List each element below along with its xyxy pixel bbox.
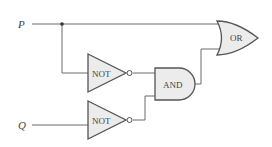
not-gate-1-label: NOT	[92, 69, 111, 79]
input-label-p: P	[17, 18, 25, 30]
wire-p-branch-to-not1	[62, 24, 88, 73]
not-gate-2: NOT	[88, 101, 132, 139]
or-gate-label: OR	[230, 33, 243, 43]
input-label-q: Q	[18, 119, 26, 131]
not-gate-1: NOT	[88, 54, 132, 92]
junction-dot	[60, 22, 64, 26]
and-gate: AND	[155, 68, 195, 100]
wire-not2-to-and	[133, 96, 155, 120]
and-gate-label: AND	[163, 80, 183, 90]
or-gate: OR	[217, 21, 258, 55]
logic-circuit-diagram: P Q NOT NOT AND OR	[0, 0, 272, 147]
not-gate-2-bubble	[127, 118, 132, 123]
not-gate-2-label: NOT	[92, 116, 111, 126]
not-gate-1-bubble	[127, 71, 132, 76]
